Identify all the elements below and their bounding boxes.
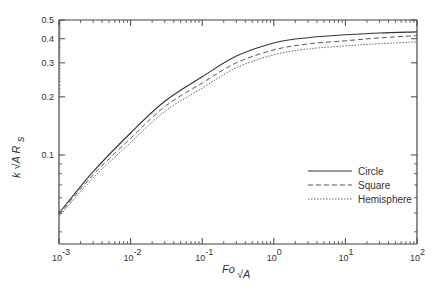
x-axis-title-text: Fo	[222, 263, 235, 275]
x-tick-label: 10	[338, 253, 348, 263]
x-tick-label: 10	[195, 253, 205, 263]
plot-frame	[59, 20, 417, 244]
x-axis-title: Fo √A	[222, 263, 250, 280]
y-axis-title: k √A R s	[10, 136, 26, 178]
y-tick-label: 0.3	[41, 58, 54, 68]
x-tick-exponent: -2	[134, 247, 142, 257]
x-tick-exponent: -3	[62, 247, 70, 257]
x-tick-exponent: 0	[277, 247, 282, 257]
x-axis-ticks: 10-310-210-1100101102	[52, 20, 425, 263]
y-tick-label: 0.1	[41, 150, 54, 160]
x-axis-title-subscript: √A	[237, 268, 250, 280]
legend-label: Hemisphere	[358, 194, 412, 205]
x-tick-label: 10	[52, 253, 62, 263]
legend: CircleSquareHemisphere	[308, 166, 412, 205]
chart: 10-310-210-1100101102 0.50.40.30.20.1 Ci…	[0, 0, 438, 293]
x-tick-label: 10	[124, 253, 134, 263]
y-tick-label: 0.2	[41, 92, 54, 102]
x-tick-exponent: -1	[205, 247, 213, 257]
x-tick-label: 10	[410, 253, 420, 263]
legend-label: Circle	[358, 166, 384, 177]
y-axis-title-subscript: s	[14, 136, 26, 142]
x-tick-label: 10	[267, 253, 277, 263]
legend-label: Square	[358, 180, 391, 191]
y-tick-label: 0.4	[41, 34, 54, 44]
x-tick-exponent: 1	[348, 247, 353, 257]
y-tick-label: 0.5	[41, 15, 54, 25]
y-axis-title-text: k √A R	[10, 145, 22, 178]
x-tick-exponent: 2	[420, 247, 425, 257]
